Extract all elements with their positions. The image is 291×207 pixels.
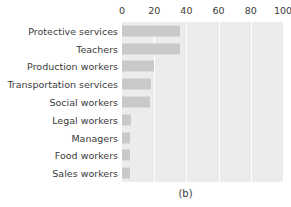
x-tick-label-20: 20 [148,5,160,16]
bar-2 [122,61,154,72]
bar-chart-figure: 020406080100 Protective servicesTeachers… [0,0,291,207]
x-tick-label-40: 40 [180,5,192,16]
gridline-80 [251,22,252,182]
category-label-2: Production workers [0,61,118,72]
category-label-0: Protective services [0,25,118,36]
category-label-8: Sales workers [0,168,118,179]
figure-caption: (b) [0,188,291,199]
x-tick-label-80: 80 [245,5,257,16]
bar-4 [122,97,150,108]
category-label-3: Transportation services [0,79,118,90]
category-label-1: Teachers [0,43,118,54]
bar-1 [122,43,180,54]
bar-7 [122,150,130,161]
category-label-4: Social workers [0,97,118,108]
bar-3 [122,79,151,90]
category-label-6: Managers [0,132,118,143]
x-tick-label-60: 60 [213,5,225,16]
gridline-40 [186,22,187,182]
bar-0 [122,25,180,36]
category-label-5: Legal workers [0,114,118,125]
plot-area [122,22,283,182]
bar-8 [122,168,130,179]
category-axis-labels: Protective servicesTeachersProduction wo… [0,22,118,182]
x-tick-label-100: 100 [274,5,291,16]
x-axis-tick-labels: 020406080100 [0,5,291,20]
bar-6 [122,132,130,143]
x-tick-label-0: 0 [119,5,125,16]
figure-caption-text: (b) [178,188,192,199]
category-label-7: Food workers [0,150,118,161]
gridline-60 [219,22,220,182]
bar-5 [122,114,131,125]
